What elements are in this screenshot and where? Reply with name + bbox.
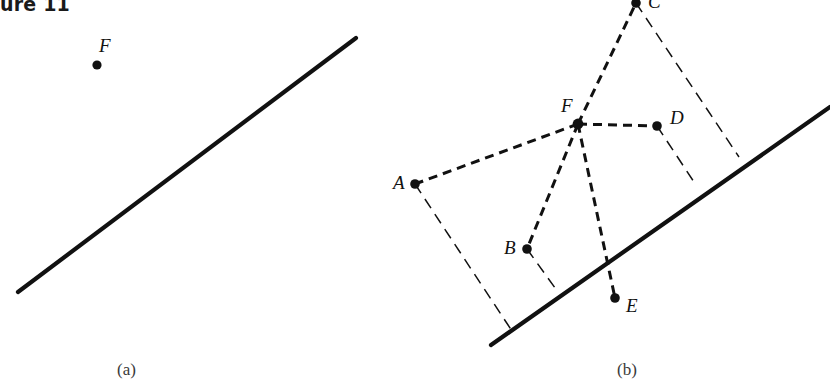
point-F — [573, 119, 584, 130]
panel-caption-b: (b) — [617, 361, 637, 378]
perpendicular-from-A — [415, 184, 512, 331]
point-label-D: D — [670, 108, 684, 127]
point-group — [410, 0, 662, 303]
point-F-panel-a — [92, 60, 101, 69]
point-D — [652, 121, 662, 131]
point-C — [631, 0, 641, 8]
point-label-A: A — [393, 173, 405, 192]
figure-root: ure 11 — [0, 0, 830, 388]
point-label-B: B — [504, 238, 516, 257]
point-label-F-panel-a: F — [99, 36, 111, 55]
panel-caption-a: (a) — [117, 361, 136, 378]
reference-line-a — [18, 38, 356, 292]
panel-a — [18, 38, 356, 292]
point-label-C: C — [648, 0, 661, 11]
panel-b — [410, 0, 830, 345]
perpendicular-from-D — [657, 126, 694, 182]
point-A — [410, 179, 420, 189]
ray-F-A — [415, 124, 578, 184]
point-label-F: F — [561, 96, 573, 115]
perpendicular-from-B — [527, 249, 558, 292]
ray-F-B — [527, 124, 578, 249]
ray-F-D — [578, 124, 657, 126]
figure-canvas — [0, 0, 830, 388]
point-label-E: E — [626, 296, 638, 315]
point-B — [522, 244, 532, 254]
point-E — [610, 293, 620, 303]
reference-line-b — [491, 107, 830, 345]
ray-F-C — [578, 3, 636, 124]
perpendicular-from-C — [636, 3, 739, 157]
